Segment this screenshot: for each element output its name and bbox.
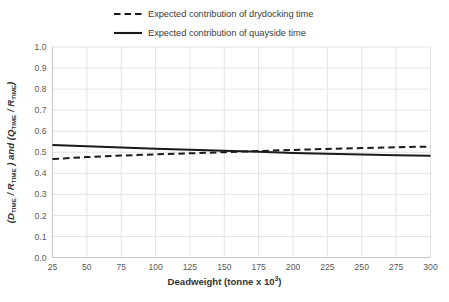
y-axis-title-text: (DTIME / RTIME ) and (QTIME / RTIME) <box>6 82 17 223</box>
y-tick-label: 0.7 <box>35 105 47 115</box>
y-tick-label: 0.0 <box>35 253 47 263</box>
x-tick-label: 150 <box>217 262 232 272</box>
x-tick-label: 300 <box>423 262 438 272</box>
y-tick-label: 0.3 <box>35 189 47 199</box>
x-tick-label: 50 <box>82 262 92 272</box>
series-line-drydocking <box>53 147 431 159</box>
y-tick-label: 0.5 <box>35 147 47 157</box>
x-tick-label: 25 <box>48 262 58 272</box>
y-tick-label: 0.6 <box>35 126 47 136</box>
y-tick-label: 0.2 <box>35 211 47 221</box>
x-tick-label: 175 <box>252 262 267 272</box>
x-tick-label: 100 <box>148 262 163 272</box>
plot-svg: 0.00.10.20.30.40.50.60.70.80.91.0 255075… <box>0 0 449 302</box>
chart-figure: Expected contribution of drydocking time… <box>0 0 449 302</box>
x-tick-label: 75 <box>116 262 126 272</box>
x-tick-label: 250 <box>355 262 370 272</box>
x-tick-label: 275 <box>389 262 404 272</box>
y-axis-title: (DTIME / RTIME ) and (QTIME / RTIME) <box>2 45 20 260</box>
y-tick-label: 0.1 <box>35 232 47 242</box>
y-tick-labels: 0.00.10.20.30.40.50.60.70.80.91.0 <box>35 42 47 263</box>
y-tick-label: 1.0 <box>35 42 47 52</box>
y-tick-label: 0.4 <box>35 168 47 178</box>
x-tick-labels: 255075100125150175200225250275300 <box>48 262 438 272</box>
x-axis-title-text: Deadweight (tonne x 103) <box>168 276 282 287</box>
x-tick-label: 125 <box>183 262 198 272</box>
x-tick-label: 225 <box>320 262 335 272</box>
y-tick-label: 0.9 <box>35 63 47 73</box>
series-line-quayside <box>53 145 431 156</box>
plot-area: 0.00.10.20.30.40.50.60.70.80.91.0 255075… <box>0 0 449 302</box>
x-axis-title: Deadweight (tonne x 103) <box>0 276 449 287</box>
x-tick-label: 200 <box>286 262 301 272</box>
y-tick-label: 0.8 <box>35 84 47 94</box>
